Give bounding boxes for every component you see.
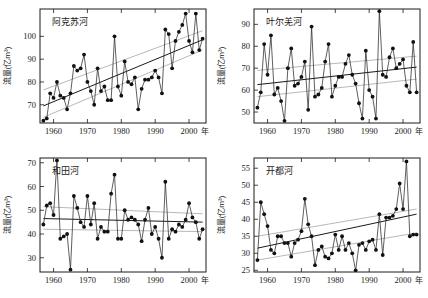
data-point [48,201,52,205]
data-point [99,225,103,229]
data-point [310,234,314,238]
data-point [296,238,300,242]
data-point [303,197,307,201]
data-point [340,234,344,238]
data-point [283,241,287,245]
series-polyline [43,160,202,269]
data-point [153,225,157,229]
data-point [75,69,79,73]
chart-svg-kaidu: 2530354045505519601970198019902000年流量(亿m… [214,149,428,298]
y-tick-label: 70 [28,100,37,110]
data-point [133,76,137,80]
x-tick-label: 2000 [395,275,412,285]
data-point [180,23,184,27]
y-tick-label: 60 [28,182,37,192]
data-point [75,206,79,210]
data-point [147,206,151,210]
data-point [82,225,86,229]
data-point [371,238,375,242]
data-point [272,93,276,97]
x-tick-label: 1990 [147,126,164,136]
data-point [259,90,263,94]
data-point [313,95,317,99]
x-tick-label: 1970 [293,126,310,136]
data-point [381,73,385,77]
data-point [69,268,73,272]
data-point [283,119,287,123]
x-axis-unit-label: 年 [415,126,423,136]
data-point [296,82,300,86]
data-point [167,237,171,241]
x-tick-label: 1960 [45,126,62,136]
data-point [384,75,388,79]
data-point [327,256,331,260]
data-point [187,201,191,205]
data-point [333,233,337,237]
data-point [262,42,266,46]
x-tick-label: 1980 [113,126,130,136]
data-point [106,230,110,234]
data-point [197,48,201,52]
data-point [150,232,154,236]
data-point [279,234,283,238]
data-point [89,223,93,227]
data-point [313,263,317,267]
y-tick-label: 90 [242,19,251,29]
data-point [286,241,290,245]
data-point [41,119,45,123]
data-point [65,232,69,236]
data-point [293,84,297,88]
chart-canvas-yarkant: 506070809019601970198019902000年流量(亿m³)叶尔… [214,0,428,149]
data-point [411,40,415,44]
data-point [174,230,178,234]
data-point [72,194,76,198]
data-point [177,30,181,34]
data-point [340,75,344,79]
x-tick-label: 1990 [361,126,378,136]
data-point [408,234,412,238]
data-point [269,33,273,37]
x-tick-label: 1960 [45,275,62,285]
data-point [116,85,120,89]
data-point [55,80,59,84]
data-point [320,245,324,249]
data-point [177,223,181,227]
series-group [41,12,204,123]
data-point [153,69,157,73]
y-tick-label: 30 [28,253,37,263]
y-tick-label: 40 [242,214,251,224]
y-axis-label: 流量(亿m³) [216,46,226,85]
data-point [109,98,113,102]
trend-line-upper [257,56,416,70]
y-tick-label: 70 [28,158,37,168]
chart-svg-yarkant: 506070809019601970198019902000年流量(亿m³)叶尔… [214,0,428,149]
data-point [266,224,270,228]
data-point [130,215,134,219]
data-point [201,227,205,231]
data-point [276,86,280,90]
chart-title-kaidu: 开都河 [266,165,293,176]
chart-title-hotan: 和田河 [52,165,79,176]
data-point [405,84,409,88]
y-tick-label: 100 [23,31,36,41]
data-point [143,218,147,222]
data-point [86,80,90,84]
data-point [381,253,385,257]
data-point [123,60,127,64]
data-point [361,117,365,121]
series-polyline [43,14,202,121]
data-point [330,251,334,255]
data-point [306,222,310,226]
data-point [323,60,327,64]
chart-canvas-kaidu: 2530354045505519601970198019902000年流量(亿m… [214,149,428,298]
data-point [72,64,76,68]
data-point [337,248,341,252]
chart-canvas-aksu: 70809010019601970198019902000年流量(亿m³)阿克苏… [0,0,214,149]
data-point [143,78,147,82]
data-point [347,241,351,245]
data-point [170,227,174,231]
data-point [157,76,161,80]
data-point [337,75,341,79]
data-point [354,268,358,272]
chart-title-aksu: 阿克苏河 [52,16,88,27]
